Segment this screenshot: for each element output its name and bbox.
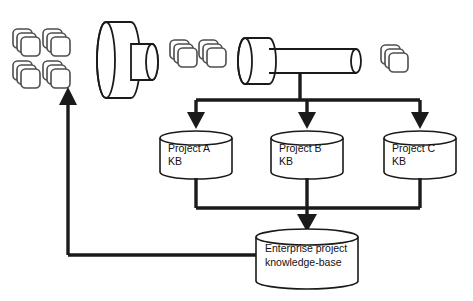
enterprise-kb-label-line2: knowledge-base	[265, 256, 342, 268]
docs-left-top-left-stack	[13, 29, 40, 56]
project-b-kb-label-line2: KB	[279, 155, 293, 167]
docs-mid-right-stack	[199, 40, 226, 67]
merge-bus-connector	[196, 178, 420, 232]
docs-left-bottom-left-stack	[13, 61, 40, 88]
project-a-kb-label-line1: Project A	[168, 142, 210, 154]
funnel-large	[97, 22, 158, 98]
diagram-svg: Project A KB Project B KB Project C KB	[0, 0, 473, 301]
docs-right-stack	[381, 45, 408, 72]
docs-left-bottom-right-stack	[43, 61, 70, 88]
project-c-kb-label-line2: KB	[392, 155, 406, 167]
project-b-kb-node: Project B KB	[271, 131, 343, 179]
project-a-kb-label-line2: KB	[168, 155, 182, 167]
project-c-kb-label-line1: Project C	[392, 142, 436, 154]
project-a-kb-node: Project A KB	[160, 131, 232, 179]
enterprise-kb-node: Enterprise project knowledge-base	[256, 229, 358, 289]
docs-left-top-right-stack	[43, 29, 70, 56]
project-b-kb-label-line1: Project B	[279, 142, 322, 154]
docs-mid-left-stack	[170, 40, 197, 67]
enterprise-kb-label-line1: Enterprise project	[265, 242, 347, 254]
feed-bus-connector	[187, 74, 429, 129]
project-c-kb-node: Project C KB	[384, 131, 456, 179]
diagram-canvas: Project A KB Project B KB Project C KB	[0, 0, 473, 301]
